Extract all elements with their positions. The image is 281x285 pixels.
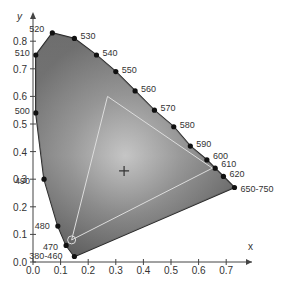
y-tick-label: 0.2: [13, 202, 27, 213]
wavelength-label: 550: [122, 65, 137, 75]
wavelength-label: 510: [15, 48, 30, 58]
x-axis-label: x: [248, 241, 253, 252]
x-tick-label: 0.6: [192, 265, 206, 276]
wavelength-marker: [221, 174, 226, 179]
wavelength-marker: [133, 88, 138, 93]
wavelength-label: 490: [15, 176, 30, 186]
wavelength-marker: [33, 52, 38, 57]
wavelength-marker: [72, 36, 77, 41]
y-tick-label: 0.0: [13, 257, 27, 268]
y-tick-label: 0.7: [13, 64, 27, 75]
wavelength-label: 620: [229, 169, 244, 179]
wavelength-label: 540: [102, 48, 117, 58]
wavelength-label: 590: [196, 139, 211, 149]
wavelength-marker: [72, 254, 77, 259]
y-tick-label: 0.1: [13, 229, 27, 240]
y-tick-label: 0.4: [13, 147, 27, 158]
wavelength-marker: [213, 166, 218, 171]
x-axis-arrow-icon: [246, 259, 252, 265]
x-tick-label: 0.3: [109, 265, 123, 276]
wavelength-label: 530: [80, 31, 95, 41]
wavelength-marker: [64, 243, 69, 248]
wavelength-marker: [94, 52, 99, 57]
wavelength-marker: [188, 143, 193, 148]
wavelength-label: 470: [43, 242, 58, 252]
y-axis-arrow-icon: [30, 12, 36, 19]
x-tick-label: 0.5: [164, 265, 178, 276]
wavelength-label: 500: [15, 106, 30, 116]
wavelength-label: 380-460: [29, 251, 62, 261]
wavelength-label: 580: [180, 120, 195, 130]
x-tick-label: 0.4: [136, 265, 150, 276]
wavelength-label: 480: [35, 221, 50, 231]
x-tick-label: 0.1: [54, 265, 68, 276]
wavelength-label: 650-750: [240, 184, 273, 194]
wavelength-marker: [152, 108, 157, 113]
wavelength-marker: [55, 224, 60, 229]
wavelength-label: 520: [29, 24, 44, 34]
wavelength-label: 610: [221, 159, 236, 169]
wavelength-marker: [171, 124, 176, 129]
y-axis-label: y: [16, 11, 23, 22]
wavelength-marker: [113, 69, 118, 74]
y-tick-label: 0.6: [13, 91, 27, 102]
wavelength-label: 560: [141, 84, 156, 94]
wavelength-marker: [41, 177, 46, 182]
wavelength-label: 570: [160, 103, 175, 113]
y-tick-label: 0.8: [13, 36, 27, 47]
x-tick-label: 0.0: [26, 265, 40, 276]
wavelength-marker: [50, 30, 55, 35]
chart-canvas: xy0.00.10.20.30.40.50.60.70.00.10.20.30.…: [0, 0, 281, 285]
wavelength-marker: [33, 110, 38, 115]
y-tick-label: 0.5: [13, 119, 27, 130]
cie-chromaticity-diagram: xy0.00.10.20.30.40.50.60.70.00.10.20.30.…: [0, 0, 281, 285]
wavelength-marker: [232, 185, 237, 190]
wavelength-marker: [204, 157, 209, 162]
x-tick-label: 0.2: [81, 265, 95, 276]
x-tick-label: 0.7: [219, 265, 233, 276]
